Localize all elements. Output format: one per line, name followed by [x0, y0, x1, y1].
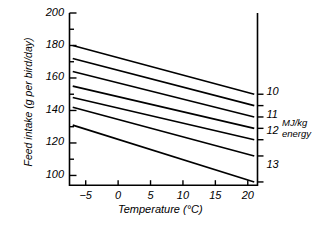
right-axis-label: 13 [267, 158, 279, 170]
right-axis-ticks [258, 94, 264, 182]
y-tick-label: 200 [24, 6, 64, 18]
x-tick-label: 20 [234, 189, 262, 201]
right-axis-label: 12 [267, 124, 279, 136]
x-tick-label: 5 [137, 189, 165, 201]
series-line-12 [73, 107, 255, 156]
data-series-lines [73, 45, 255, 181]
series-line-10.5 [73, 71, 255, 116]
feed-intake-temperature-chart: 100120140160180200 −505101520 10111213 F… [0, 0, 331, 227]
y-axis-title: Feed intake (g per bird/day) [22, 22, 34, 182]
right-axis-label: 10 [267, 85, 279, 97]
series-line-10 [73, 58, 255, 105]
right-axis-title-line1: MJ/kg [282, 117, 307, 128]
x-tick-label: 10 [169, 189, 197, 201]
series-line-11 [73, 86, 255, 128]
x-tick-label: −5 [72, 189, 100, 201]
series-line-9.5 [73, 45, 255, 94]
x-tick-label: 15 [201, 189, 229, 201]
right-axis-title-line2: energy [282, 128, 311, 139]
right-axis-label: 11 [267, 108, 278, 120]
x-tick-label: 0 [104, 189, 132, 201]
x-axis-title: Temperature (°C) [118, 203, 203, 215]
y-axis-ticks [70, 13, 77, 175]
